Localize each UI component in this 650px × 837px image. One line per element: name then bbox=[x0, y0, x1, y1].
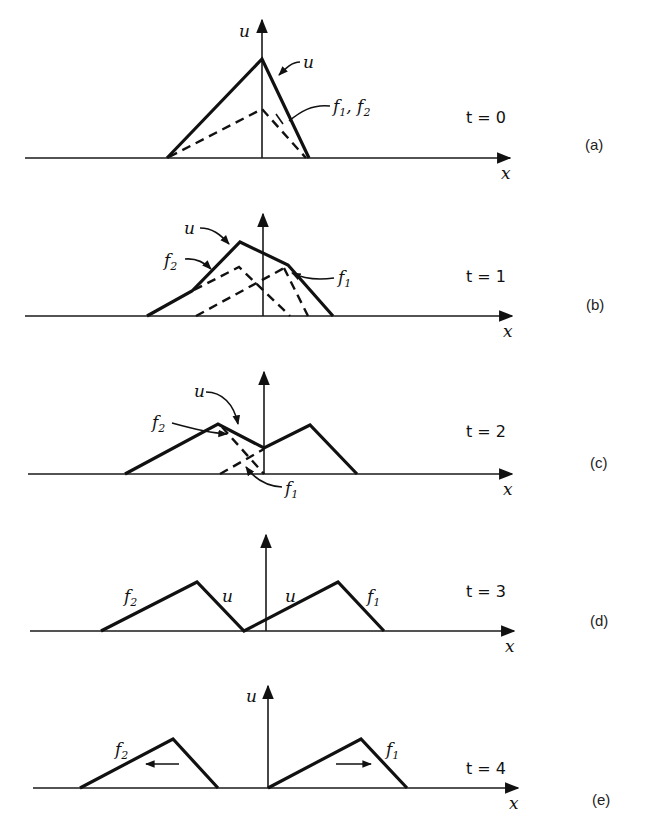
x-axis-label: x bbox=[501, 163, 511, 183]
panel-label: (a) bbox=[585, 136, 603, 153]
x-axis-label: x bbox=[503, 321, 513, 341]
u-curve bbox=[101, 582, 384, 631]
x-axis-label: x bbox=[509, 793, 519, 813]
x-axis-label: x bbox=[505, 636, 515, 656]
f1-curve-label: f1 bbox=[336, 267, 351, 290]
f2-curve-label: f2 bbox=[162, 250, 177, 273]
panel-label: (c) bbox=[590, 454, 608, 471]
f2-curve-label: f2 bbox=[113, 739, 128, 762]
u-axis-label: u bbox=[239, 21, 250, 41]
panel-label: (e) bbox=[592, 791, 610, 808]
panel-d: x f2 u u f1 t = 3 (d) bbox=[30, 535, 608, 656]
u-curve-label: u bbox=[184, 218, 195, 238]
u-callout-arrow bbox=[279, 62, 300, 75]
f2-curve bbox=[222, 427, 264, 474]
f2-curve-label: f2 bbox=[150, 412, 165, 435]
u-curve-label: u bbox=[194, 381, 205, 401]
f1-curve-label: f1 bbox=[365, 586, 380, 609]
x-axis-label: x bbox=[503, 479, 513, 499]
u-right-label: u bbox=[285, 586, 296, 606]
panel-e: u x f2 f1 t = 4 (e) bbox=[33, 686, 610, 813]
panel-a: u x u f1, f2 t = 0 (a) bbox=[25, 20, 603, 183]
f1-curve-label: f1 bbox=[283, 478, 298, 501]
panel-label: (b) bbox=[586, 296, 604, 313]
time-label: t = 0 bbox=[466, 108, 506, 127]
time-label: t = 4 bbox=[466, 759, 506, 778]
time-label: t = 2 bbox=[466, 422, 506, 441]
f1f2-curve-label: f1, f2 bbox=[331, 96, 370, 119]
f1f2-callout-tick bbox=[276, 114, 283, 124]
u-curve bbox=[147, 242, 333, 316]
u-curve bbox=[167, 59, 309, 158]
panel-label: (d) bbox=[590, 612, 608, 629]
u-callout-arrow bbox=[206, 392, 238, 424]
panel-c: x u f2 f1 t = 2 (c) bbox=[28, 372, 608, 501]
u-axis-label: u bbox=[246, 686, 257, 706]
u-callout-arrow bbox=[200, 228, 229, 244]
u-left-label: u bbox=[222, 586, 233, 606]
panel-b: x u f2 f1 t = 1 (b) bbox=[25, 214, 604, 341]
time-label: t = 1 bbox=[466, 267, 506, 286]
f2-callout-arrow bbox=[185, 259, 211, 269]
f1f2-callout-line bbox=[289, 106, 330, 121]
f1-curve bbox=[220, 449, 264, 474]
u-curve-label: u bbox=[303, 52, 314, 72]
time-label: t = 3 bbox=[466, 582, 506, 601]
f1-curve-label: f1 bbox=[384, 739, 399, 762]
wave-decomposition-figure: u x u f1, f2 t = 0 (a) x u f2 f1 t = 1 (… bbox=[0, 0, 650, 837]
f2-curve-label: f2 bbox=[122, 586, 137, 609]
